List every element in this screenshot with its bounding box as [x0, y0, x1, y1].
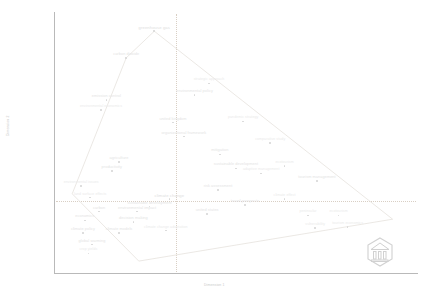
term-label[interactable]: environmental impact: [118, 206, 156, 210]
term-label[interactable]: ecotourism: [276, 160, 294, 164]
term-node[interactable]: [118, 161, 120, 163]
term-node[interactable]: [235, 168, 237, 170]
term-node[interactable]: [91, 244, 93, 246]
term-label[interactable]: climate policy: [71, 227, 95, 231]
term-label[interactable]: climate change: [155, 193, 185, 198]
term-node[interactable]: [84, 220, 86, 222]
term-label[interactable]: strategic approach: [194, 77, 225, 81]
term-label[interactable]: global warming: [79, 239, 106, 243]
term-label[interactable]: vulnerability: [305, 222, 325, 226]
term-node[interactable]: [118, 232, 120, 234]
term-label[interactable]: economics: [75, 214, 94, 218]
y-axis-line: [54, 12, 55, 274]
term-label[interactable]: land surface effects: [74, 192, 106, 196]
term-node[interactable]: [206, 213, 208, 215]
vosviewer-map-canvas[interactable]: Dimension 2 Dimension 1 greenhouse gasca…: [0, 0, 438, 297]
term-node[interactable]: [347, 226, 349, 228]
term-node[interactable]: [219, 154, 221, 156]
term-node[interactable]: [125, 57, 127, 59]
term-node[interactable]: [217, 189, 219, 191]
term-node[interactable]: [314, 227, 316, 229]
vertical-gridline: [176, 14, 177, 272]
term-label[interactable]: tourism management: [298, 175, 335, 179]
term-label[interactable]: pandemic strategy: [228, 115, 258, 119]
term-node[interactable]: [208, 83, 210, 85]
term-node[interactable]: [80, 185, 82, 187]
term-label[interactable]: sustainable development: [214, 162, 258, 166]
y-axis-label: Dimension 2: [6, 116, 10, 137]
term-label[interactable]: decision making: [119, 216, 148, 220]
term-node[interactable]: [89, 197, 91, 199]
term-node[interactable]: [244, 204, 246, 206]
term-label[interactable]: greenhouse gas: [139, 25, 170, 30]
term-node[interactable]: [338, 215, 340, 217]
term-label[interactable]: comparative study: [255, 137, 285, 141]
term-label[interactable]: environmental policy: [176, 89, 213, 93]
term-label[interactable]: emission control: [92, 94, 121, 98]
term-node[interactable]: [284, 165, 286, 167]
term-label[interactable]: environmental economics: [80, 104, 122, 108]
term-label[interactable]: ecotourism: [330, 209, 348, 213]
term-node[interactable]: [169, 198, 171, 200]
term-label[interactable]: peninsular: [299, 209, 316, 213]
term-node[interactable]: [183, 136, 185, 138]
term-node[interactable]: [194, 94, 196, 96]
term-node[interactable]: [165, 230, 167, 232]
term-label[interactable]: carbon dioxide: [113, 52, 139, 56]
term-label[interactable]: mitigation: [211, 148, 228, 152]
term-node[interactable]: [88, 253, 90, 255]
term-label[interactable]: climate change adaptation: [144, 225, 187, 229]
term-node[interactable]: [133, 221, 135, 223]
term-label[interactable]: united kingdom: [159, 117, 186, 121]
term-node[interactable]: [260, 173, 262, 175]
vosviewer-logo-icon: [364, 236, 396, 268]
term-node[interactable]: [242, 121, 244, 123]
term-label[interactable]: united states: [196, 208, 219, 212]
term-node[interactable]: [284, 198, 286, 200]
term-label[interactable]: environmental issues: [64, 180, 99, 184]
term-label[interactable]: productivity: [102, 165, 122, 169]
term-label[interactable]: climate effect: [274, 193, 296, 197]
term-label[interactable]: crop yields: [79, 247, 97, 251]
term-node[interactable]: [153, 30, 155, 32]
term-label[interactable]: risk assessment: [204, 184, 233, 188]
x-axis-label: Dimension 1: [204, 283, 225, 287]
term-node[interactable]: [98, 211, 100, 213]
term-label[interactable]: agriculture: [110, 156, 129, 160]
term-label[interactable]: sustainable development: [127, 201, 171, 205]
term-label[interactable]: climate models: [106, 227, 133, 231]
term-node[interactable]: [100, 109, 102, 111]
term-node[interactable]: [316, 180, 318, 182]
term-label[interactable]: organizational framework: [161, 131, 206, 135]
term-node[interactable]: [106, 99, 108, 101]
term-node[interactable]: [82, 232, 84, 234]
term-node[interactable]: [172, 122, 174, 124]
term-label[interactable]: tourism economics: [332, 221, 363, 225]
term-label[interactable]: carbon: [93, 206, 105, 210]
term-node[interactable]: [111, 170, 113, 172]
term-label[interactable]: travel prospects: [231, 199, 259, 203]
term-label[interactable]: adaptive management: [243, 167, 280, 171]
term-node[interactable]: [269, 142, 271, 144]
term-node[interactable]: [136, 211, 138, 213]
x-axis-line: [54, 273, 418, 274]
term-node[interactable]: [307, 215, 309, 217]
